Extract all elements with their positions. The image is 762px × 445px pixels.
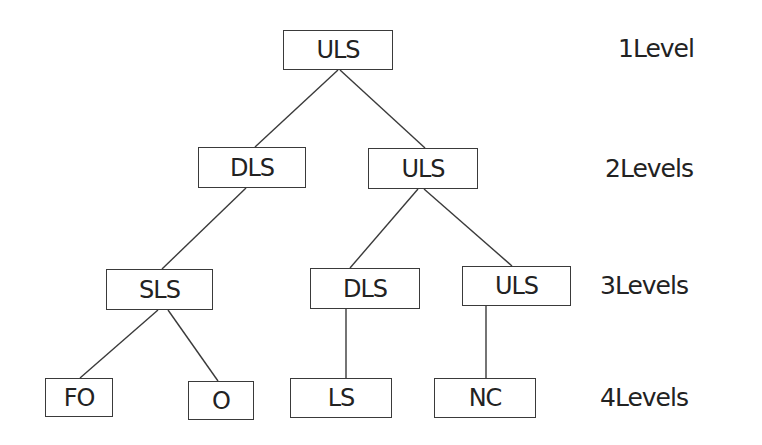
node-level3-sls: SLS: [106, 269, 213, 310]
edge-n1-n3: [340, 70, 425, 148]
edge-n4-n7: [80, 310, 158, 378]
level-label-4: 4Levels: [600, 385, 688, 410]
node-level2-dls: DLS: [198, 147, 306, 188]
node-level2-uls: ULS: [368, 148, 478, 189]
node-level3-dls: DLS: [310, 268, 420, 309]
node-level4-nc: NC: [434, 378, 536, 418]
node-level3-uls: ULS: [462, 266, 571, 306]
level-label-2: 2Levels: [605, 156, 693, 181]
edge-n2-n4: [162, 188, 246, 269]
level-label-1: 1Level: [618, 36, 694, 61]
level-label-3: 3Levels: [600, 273, 688, 298]
edge-n1-n2: [255, 70, 338, 147]
edge-n3-n6: [424, 189, 512, 266]
edge-n4-n8: [168, 310, 218, 381]
node-level4-ls: LS: [290, 378, 392, 418]
tree-diagram: ULS DLS ULS SLS DLS ULS FO O LS NC 1Leve…: [0, 0, 762, 445]
node-level4-fo: FO: [45, 378, 113, 417]
edge-n3-n5: [350, 189, 418, 268]
node-level4-o: O: [188, 381, 254, 420]
node-level1-uls: ULS: [283, 30, 393, 70]
